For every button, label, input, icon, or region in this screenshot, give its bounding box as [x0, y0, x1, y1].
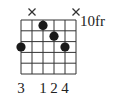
- muted-markers: [29, 9, 80, 16]
- finger-number: 2: [50, 80, 58, 96]
- finger-number: 4: [61, 80, 69, 96]
- chord-diagram: 10fr 3124: [0, 0, 119, 101]
- finger-dot: [38, 21, 47, 30]
- finger-number: 1: [39, 80, 47, 96]
- finger-number: 3: [17, 80, 25, 96]
- finger-dot: [60, 42, 69, 51]
- finger-dot: [49, 32, 58, 41]
- muted-x-icon: [73, 9, 80, 16]
- finger-dot: [16, 42, 25, 51]
- muted-x-icon: [29, 9, 36, 16]
- fret-position-label: 10fr: [80, 13, 105, 29]
- finger-numbers: 3124: [17, 80, 69, 96]
